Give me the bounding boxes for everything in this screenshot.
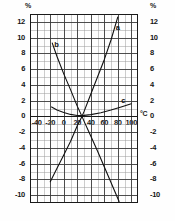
y-tick-left: -4 (3, 143, 25, 152)
y-tick-right: 2 (150, 96, 172, 105)
y-tick-left: 2 (3, 96, 25, 105)
y-tick-left: 4 (3, 80, 25, 89)
y-tick-right: 12 (150, 17, 172, 26)
y-tick-left: 6 (3, 64, 25, 73)
y-tick-right: -4 (150, 143, 172, 152)
y-tick-left: 8 (3, 48, 25, 57)
y-tick-right: 6 (150, 64, 172, 73)
curve-a (50, 17, 118, 182)
y-tick-right: 8 (150, 48, 172, 57)
y-tick-left: 10 (3, 33, 25, 42)
y-tick-right: 10 (150, 33, 172, 42)
chart-container: % % °C 121086420-2-4-6-8-10 121086420-2-… (0, 0, 175, 221)
grid-minor-lines (30, 14, 138, 203)
y-tick-right: 0 (150, 111, 172, 120)
y-tick-right: 4 (150, 80, 172, 89)
y-tick-right: -6 (150, 159, 172, 168)
y-tick-left: -8 (3, 174, 25, 183)
y-tick-left: 12 (3, 17, 25, 26)
curve-label-c: c (121, 96, 125, 105)
curve-b (52, 43, 119, 201)
y-tick-left: -10 (3, 190, 25, 199)
plot-svg (30, 14, 138, 203)
curve-label-a: a (116, 23, 120, 32)
y-tick-right: -8 (150, 174, 172, 183)
plot-area (30, 14, 138, 203)
y-tick-left: -2 (3, 127, 25, 136)
y-axis-unit-right: % (150, 2, 156, 9)
x-axis-unit: °C (140, 110, 147, 117)
grid-major-lines (30, 14, 138, 203)
y-tick-left: 0 (3, 111, 25, 120)
curve-label-b: b (54, 40, 58, 49)
y-tick-left: -6 (3, 159, 25, 168)
y-axis-unit-left: % (25, 2, 31, 9)
y-tick-right: -2 (150, 127, 172, 136)
y-tick-right: -10 (150, 190, 172, 199)
